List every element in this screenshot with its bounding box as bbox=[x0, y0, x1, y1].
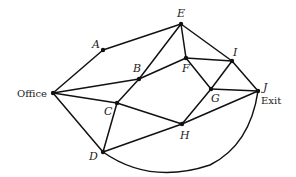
edge-g-i bbox=[211, 61, 232, 89]
node-office bbox=[51, 91, 55, 95]
edge-f-g bbox=[186, 58, 211, 89]
node-label-b: B bbox=[132, 62, 141, 75]
edge-f-i bbox=[186, 58, 232, 61]
node-b bbox=[137, 77, 141, 81]
edge-h-g bbox=[182, 89, 211, 124]
node-i bbox=[230, 59, 234, 63]
node-j bbox=[256, 89, 260, 93]
edge-h-j bbox=[182, 91, 258, 124]
node-c bbox=[115, 101, 119, 105]
node-label-h: H bbox=[179, 129, 190, 142]
edge-office-d bbox=[53, 93, 103, 152]
edge-e-i bbox=[181, 24, 232, 61]
node-label-i: I bbox=[232, 46, 238, 59]
node-label-c: C bbox=[104, 105, 113, 118]
route-graph-diagram: OfficeABCDEFGHIJ Exit bbox=[0, 0, 296, 177]
edge-office-c bbox=[53, 93, 117, 103]
node-label-e: E bbox=[176, 7, 185, 20]
node-label-j: J bbox=[261, 81, 268, 94]
node-a bbox=[101, 48, 105, 52]
node-d bbox=[101, 150, 105, 154]
edge-a-e bbox=[103, 24, 181, 50]
node-label-office: Office bbox=[17, 88, 47, 99]
edge-b-f bbox=[139, 58, 186, 79]
graph-edges bbox=[53, 24, 258, 152]
node-label-f: F bbox=[181, 62, 190, 75]
edge-d-h bbox=[103, 124, 182, 152]
edge-c-h bbox=[117, 103, 182, 124]
exit-label: Exit bbox=[261, 95, 281, 106]
node-label-d: D bbox=[88, 150, 98, 163]
edge-i-j bbox=[232, 61, 258, 91]
node-h bbox=[180, 122, 184, 126]
node-g bbox=[209, 87, 213, 91]
node-label-g: G bbox=[211, 92, 220, 105]
node-e bbox=[179, 22, 183, 26]
node-f bbox=[184, 56, 188, 60]
edge-g-j bbox=[211, 89, 258, 91]
edge-b-e bbox=[139, 24, 181, 79]
graph-labels: OfficeABCDEFGHIJ bbox=[17, 7, 268, 163]
node-label-a: A bbox=[91, 38, 100, 51]
edge-e-f bbox=[181, 24, 186, 58]
